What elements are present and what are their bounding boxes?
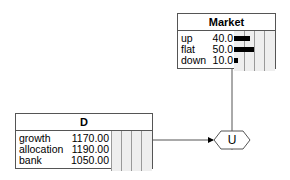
decision-node-title: D bbox=[16, 114, 152, 131]
decision-option-row: bank 1050.00 bbox=[16, 155, 152, 166]
decision-node[interactable]: D growth 1170.00 allocation 1190.00 bank… bbox=[15, 113, 153, 169]
state-value: 10.0 bbox=[206, 55, 233, 66]
option-label: bank bbox=[19, 155, 42, 166]
market-node[interactable]: Market up 40.0 flat 50.0 down 10.0 bbox=[177, 13, 276, 69]
state-bar bbox=[234, 36, 250, 41]
state-label: down bbox=[181, 55, 206, 66]
state-bar bbox=[234, 47, 254, 52]
state-bar bbox=[234, 58, 238, 63]
market-state-row: down 10.0 bbox=[178, 55, 275, 66]
option-value: 1050.00 bbox=[66, 155, 109, 166]
market-node-title: Market bbox=[178, 14, 275, 31]
utility-node-label: U bbox=[214, 131, 250, 149]
